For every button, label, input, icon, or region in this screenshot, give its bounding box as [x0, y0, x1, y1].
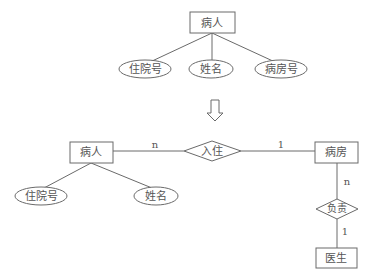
patient-attr-label-2: 姓名 [145, 191, 167, 202]
bottom-connectors [44, 151, 337, 248]
admit-relationship-label: 入住 [201, 146, 223, 157]
top-attr-label-1: 住院号 [129, 64, 162, 75]
ward-entity-label: 病房 [325, 147, 347, 158]
top-connectors [150, 33, 275, 62]
responsible-cardinality-bottom: 1 [342, 227, 348, 237]
doctor-entity-label: 医生 [325, 253, 347, 264]
responsible-relationship-label: 负责 [327, 204, 347, 214]
admit-cardinality-right: 1 [278, 140, 284, 150]
admit-cardinality-left: n [152, 140, 158, 150]
top-entity-label: 病人 [201, 18, 223, 29]
top-attr-label-2: 姓名 [200, 64, 222, 75]
top-attr-label-3: 病房号 [265, 64, 298, 75]
patient-entity-label: 病人 [80, 147, 102, 158]
patient-attr-label-1: 住院号 [25, 191, 58, 202]
responsible-cardinality-top: n [344, 177, 350, 187]
down-arrow-icon [207, 100, 223, 121]
er-diagram-canvas [0, 0, 371, 278]
